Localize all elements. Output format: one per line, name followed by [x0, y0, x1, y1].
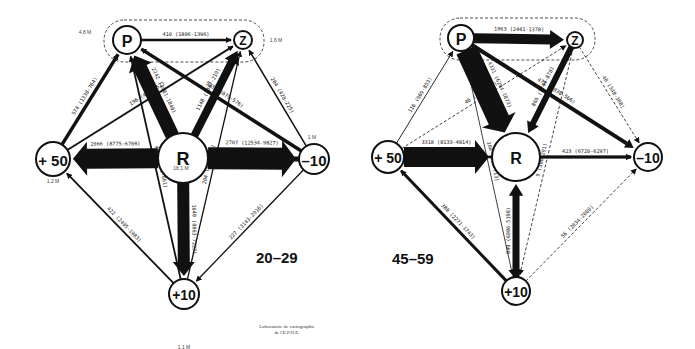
flow-label: 3318 (8133-4814) — [422, 139, 472, 145]
node-label: + 50 — [38, 152, 68, 169]
flow-arrow-shape — [509, 184, 524, 277]
population-label: 1,2 M — [47, 178, 60, 184]
node-plus10-left: +101,1 M — [169, 279, 199, 349]
flow-label: 423 (6720-6297) — [562, 148, 609, 154]
population-label: 1,6 M — [270, 37, 283, 43]
flow-label: 56 (2034-2000) — [560, 204, 595, 239]
credit-line-1: Laboratoire de cartographie — [259, 324, 315, 329]
node-plus50-right: + 50 — [372, 141, 404, 173]
migration-flow-diagram: 410 (1806-1396)2242 (4081-1840)1148 (136… — [0, 0, 695, 349]
flow-+10-to--10: 56 (2034-2000) — [526, 169, 636, 281]
nodes-layer: P4,8 MZ1,6 MR18,1 M+ 501,2 M–101 M+101,1… — [36, 25, 662, 349]
panel-title-right: 45–59 — [392, 250, 434, 267]
flow-arrow-shape — [527, 46, 574, 133]
node-label: –10 — [301, 152, 326, 169]
flow-arrow-line — [67, 173, 174, 283]
flow-P-to-Z: 410 (1806-1396) — [141, 31, 231, 40]
flow-label: 40 (348-308) — [601, 74, 626, 109]
flow-P-to-Z: 1063 (2441-1378) — [474, 26, 564, 50]
flow-+50-to-P: 574 (1338-764) — [62, 54, 118, 144]
node-P-left: P4,8 M — [79, 26, 141, 54]
flow-+10-to-R: 849 (6086-5198) — [505, 184, 524, 277]
node-label: +10 — [172, 287, 196, 303]
population-label: 18,1 M — [173, 165, 188, 171]
population-label: 1,1 M — [178, 344, 191, 349]
flow-label: 2066 (8775-6708) — [90, 140, 140, 146]
node-label: P — [456, 31, 467, 48]
flow-label: 204 (428-225) — [270, 76, 296, 114]
flow--10-to-Z: 204 (428-225) — [249, 50, 306, 146]
node-label: +10 — [504, 284, 528, 300]
flow-label: 2707 (12534-9827) — [226, 139, 279, 145]
node-R-right: R — [492, 133, 540, 181]
flow-arrow-line — [579, 47, 639, 143]
flow-label: 849 (6086-5198) — [505, 207, 511, 254]
flow-label: 116 (969-853) — [407, 76, 433, 114]
flows-layer: 410 (1806-1396)2242 (4081-1840)1148 (136… — [62, 26, 639, 284]
flow-arrow-line — [62, 54, 118, 144]
flow-label: 227 (3143-2916) — [228, 203, 265, 241]
credit-line-2: de l'E.P.H.E. — [274, 330, 299, 335]
flow-+10-to-+50: 422 (2405-1983) — [67, 173, 174, 283]
node-R-left: R18,1 M — [158, 133, 208, 183]
node-label: P — [122, 33, 133, 50]
flow-+50-to-P: 116 (969-853) — [396, 52, 452, 144]
flow-arrow-shape — [474, 30, 564, 49]
flow-label: 1063 (2441-1378) — [494, 26, 544, 33]
flow-Z-to--10: 40 (348-308) — [579, 47, 639, 143]
node-Z-right: Z — [567, 32, 583, 48]
node-label: Z — [571, 34, 578, 48]
flow-label: 388 (2271-1743) — [440, 202, 477, 240]
node-minus10-right: –10 — [634, 143, 662, 171]
node-label: –10 — [636, 150, 660, 166]
population-label: 1 M — [308, 134, 316, 140]
node-Z-left: Z1,6 M — [234, 31, 282, 49]
flow-R-to--10: 423 (6720-6297) — [540, 148, 631, 158]
flow-label: 410 (1806-1396) — [163, 31, 210, 37]
node-plus50-left: + 501,2 M — [36, 142, 70, 184]
flow-arrow-line — [526, 169, 636, 281]
panel-title-left: 20–29 — [256, 249, 298, 266]
node-label: Z — [239, 34, 246, 48]
flow-Z-to-R: 866 (1744-878) — [527, 46, 574, 133]
node-plus10-right: +10 — [502, 277, 530, 305]
node-P-right: P — [448, 25, 474, 51]
flow-arrow-line — [396, 52, 452, 144]
node-label: + 50 — [374, 150, 402, 166]
flow-label: 422 (2405-1983) — [106, 205, 143, 243]
population-label: 4,8 M — [79, 29, 92, 35]
flow-arrow-line — [249, 50, 306, 146]
node-label: R — [510, 150, 522, 167]
